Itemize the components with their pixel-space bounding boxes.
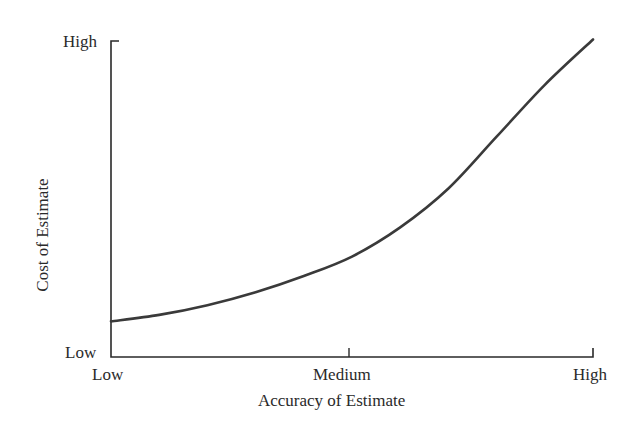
x-tick-low: Low: [92, 366, 123, 383]
cost-accuracy-chart: High Low Low Medium High Accuracy of Est…: [0, 0, 641, 432]
x-axis-title: Accuracy of Estimate: [258, 392, 405, 409]
cost-curve: [111, 39, 593, 321]
y-tick-low: Low: [65, 344, 96, 361]
y-tick-high: High: [63, 33, 97, 50]
x-tick-medium-label: Medium: [313, 366, 371, 383]
x-tick-high: High: [573, 366, 607, 383]
y-axis-title: Cost of Estimate: [34, 178, 51, 291]
